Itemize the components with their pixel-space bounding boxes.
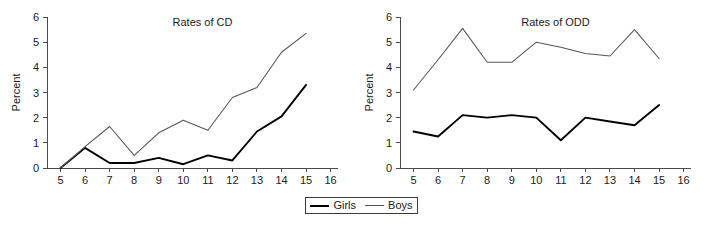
x-tick-label: 10 [177,174,189,186]
y-tick-label: 0 [386,162,392,174]
x-tick-label: 16 [678,174,690,186]
y-tick-label: 0 [33,162,39,174]
y-tick-label: 1 [33,137,39,149]
x-tick-label: 11 [555,174,566,186]
x-tick-label: 6 [82,174,88,186]
y-axis-title: Percent [363,74,375,112]
x-axis-title: Age [536,189,556,190]
y-tick-label: 6 [386,11,392,23]
x-tick-label: 9 [156,174,162,186]
x-tick-label: 13 [251,174,263,186]
y-tick-label: 6 [33,11,39,23]
x-tick-label: 14 [275,174,287,186]
chart-legend: Girls Boys [305,197,418,214]
legend-line-icon-girls [310,205,329,207]
y-tick-label: 3 [33,87,39,99]
chart-title: Rates of CD [173,16,233,28]
series-line-boys [61,33,307,168]
y-tick-label: 1 [386,137,392,149]
x-tick-label: 5 [57,174,63,186]
x-tick-label: 12 [226,174,238,186]
x-tick-label: 9 [509,174,515,186]
chart-panel-rates-of-odd: 01234565678910111213141516Rates of ODDAg… [353,0,706,190]
chart-title: Rates of ODD [521,16,590,28]
series-line-boys [414,28,660,90]
x-tick-label: 11 [202,174,213,186]
x-tick-label: 12 [579,174,591,186]
x-tick-label: 6 [435,174,441,186]
legend-entry-girls: Girls [310,200,356,211]
chart-panel-rates-of-cd: 01234565678910111213141516Rates of CDAge… [0,0,353,190]
x-tick-label: 7 [460,174,466,186]
figure: 01234565678910111213141516Rates of CDAge… [0,0,706,229]
x-axis-title: Age [183,189,203,190]
x-tick-label: 10 [530,174,542,186]
series-line-girls [414,105,660,140]
x-tick-label: 15 [653,174,665,186]
y-tick-label: 5 [33,36,39,48]
chart-panels: 01234565678910111213141516Rates of CDAge… [0,0,706,190]
x-tick-label: 14 [628,174,640,186]
legend-label-boys: Boys [388,200,412,211]
y-tick-label: 5 [386,36,392,48]
x-tick-label: 7 [107,174,113,186]
series-line-girls [61,85,307,168]
legend-line-icon-boys [365,205,384,206]
y-tick-label: 3 [386,87,392,99]
x-tick-label: 8 [131,174,137,186]
x-tick-label: 15 [300,174,312,186]
x-tick-label: 13 [604,174,616,186]
y-tick-label: 4 [386,61,392,73]
y-tick-label: 4 [33,61,39,73]
x-tick-label: 8 [484,174,490,186]
legend-label-girls: Girls [333,200,356,211]
x-tick-label: 5 [410,174,416,186]
x-tick-label: 16 [325,174,337,186]
legend-entry-boys: Boys [365,200,412,211]
y-axis-title: Percent [10,74,22,112]
y-tick-label: 2 [386,112,392,124]
y-tick-label: 2 [33,112,39,124]
